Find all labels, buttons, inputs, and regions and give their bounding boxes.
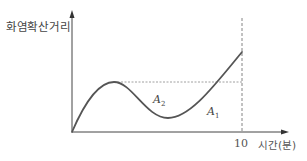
y-axis-arrow-icon (70, 10, 75, 18)
area-a2-base: A (153, 93, 161, 106)
area-a1-base: A (207, 105, 215, 118)
area-a2-label: A2 (153, 93, 165, 108)
x-axis-label: 시간(분) (258, 137, 296, 152)
x-tick-10: 10 (234, 137, 248, 150)
area-a2-sub: 2 (161, 100, 165, 108)
x-axis-arrow-icon (281, 130, 289, 135)
area-a1-label: A1 (207, 105, 219, 120)
area-a1-sub: 1 (215, 112, 219, 120)
y-axis-label: 화염확산거리 (6, 18, 70, 34)
